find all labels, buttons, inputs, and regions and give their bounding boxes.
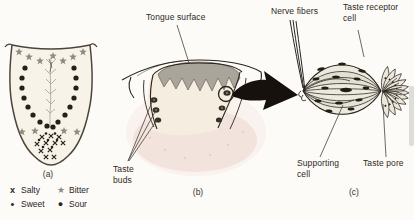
tongue-surface-pointer-line (177, 25, 189, 63)
taste-receptor-pointer-line (358, 30, 364, 57)
legend-item-bitter: ★ Bitter (56, 185, 89, 195)
legend-item-salty: x Salty (8, 185, 54, 195)
legend-item-sweet: • Sweet (8, 199, 54, 209)
anatomy-figure: Tongue surface Nerve fibers Taste recept… (0, 0, 414, 220)
label-tongue-surface: Tongue surface (146, 12, 206, 23)
caption-panel-b: (b) (186, 187, 210, 197)
epithelial-cell-petals (380, 66, 409, 118)
label-taste-buds: Taste buds (113, 164, 143, 185)
label-taste-pore: Taste pore (363, 158, 404, 169)
tongue-taste-map-illustration (5, 44, 97, 165)
label-nerve-fibers: Nerve fibers (271, 6, 318, 17)
nerve-fiber-lines (290, 20, 306, 101)
sour-dot-symbol: ● (56, 200, 65, 208)
bitter-label: Bitter (69, 185, 89, 195)
caption-panel-c: (c) (342, 187, 366, 197)
salty-x-symbol: x (8, 186, 17, 194)
bitter-star-symbol: ★ (56, 186, 65, 194)
taste-bud-detail-illustration (290, 20, 414, 157)
sour-label: Sour (69, 199, 87, 209)
taste-legend: x Salty ★ Bitter • Sweet ● Sour (8, 185, 89, 209)
papilla-cross-section-illustration (122, 25, 266, 176)
salty-label: Salty (21, 185, 40, 195)
caption-panel-a: (a) (36, 169, 60, 179)
sweet-label: Sweet (21, 199, 45, 209)
legend-item-sour: ● Sour (56, 199, 89, 209)
label-supporting-cell: Supporting cell (297, 158, 347, 179)
sweet-dot-symbol: • (8, 200, 17, 208)
label-taste-receptor-cell: Taste receptor cell (343, 2, 407, 23)
